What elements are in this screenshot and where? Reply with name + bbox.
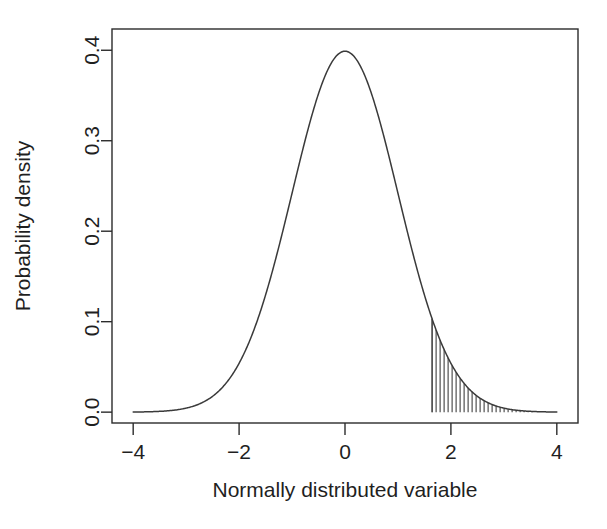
- x-tick-label: −2: [227, 440, 251, 463]
- x-tick-label: 0: [339, 440, 351, 463]
- y-axis-tick-labels: 0.00.10.20.30.4: [80, 35, 103, 426]
- normal-distribution-figure: 0.00.10.20.30.4 −4−2024 Normally distrib…: [0, 0, 607, 529]
- chart-canvas: 0.00.10.20.30.4 −4−2024 Normally distrib…: [0, 0, 607, 529]
- y-tick-label: 0.3: [80, 126, 103, 155]
- plot-frame: [112, 29, 578, 423]
- y-axis-title: Probability density: [11, 140, 34, 311]
- y-tick-label: 0.1: [80, 307, 103, 336]
- x-axis-tick-labels: −4−2024: [121, 440, 563, 463]
- x-axis-title: Normally distributed variable: [213, 478, 478, 501]
- x-tick-label: −4: [121, 440, 145, 463]
- density-curve: [133, 51, 557, 412]
- shaded-tail-region: [432, 319, 532, 412]
- x-tick-label: 4: [551, 440, 563, 463]
- y-tick-label: 0.4: [80, 35, 103, 65]
- y-tick-label: 0.0: [80, 398, 103, 427]
- x-tick-label: 2: [445, 440, 457, 463]
- x-axis-ticks: [133, 423, 557, 435]
- y-tick-label: 0.2: [80, 217, 103, 246]
